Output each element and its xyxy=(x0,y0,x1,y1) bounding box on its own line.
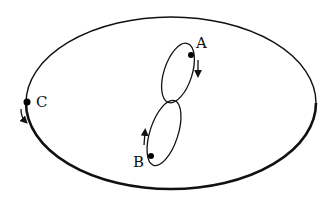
point-a-dot xyxy=(188,52,194,58)
point-a-label: A xyxy=(195,34,207,52)
point-c-dot xyxy=(24,99,31,106)
lower-loop xyxy=(140,96,188,169)
upper-loop xyxy=(155,39,201,107)
point-c-label: C xyxy=(36,93,47,111)
point-b-label: B xyxy=(133,153,144,171)
point-c-arrow xyxy=(21,109,25,121)
orbit-diagram: A B C xyxy=(0,0,335,199)
point-b-arrow xyxy=(144,132,145,145)
point-b-dot xyxy=(148,153,154,159)
